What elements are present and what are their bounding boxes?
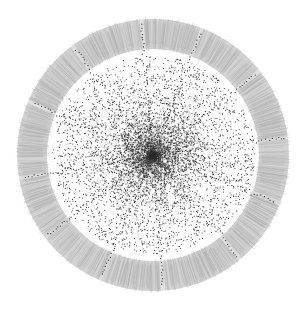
core-nodes xyxy=(53,57,255,253)
network-graph xyxy=(0,0,307,313)
